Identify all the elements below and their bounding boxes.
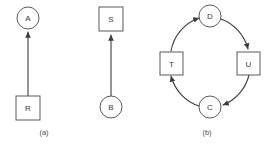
diagram-a-canvas: A R [0,0,88,128]
node-d-label: D [207,12,213,21]
diagram-c-canvas: D U C T [150,0,273,128]
node-r[interactable]: R [16,96,40,120]
node-d[interactable]: D [199,5,221,27]
diagram-panel-b: S B (b) [88,0,150,145]
figure-root: A R (a) S [0,0,273,145]
edge-u-to-c [223,75,249,105]
node-b[interactable]: B [100,96,122,118]
node-u[interactable]: U [237,52,260,75]
diagram-b-canvas: S B [88,0,150,128]
node-s-label: S [108,15,113,24]
diagram-panel-a: A R (a) [0,0,88,145]
node-t[interactable]: T [160,52,183,75]
edge-d-to-u [221,19,248,49]
node-b-label: B [108,103,113,112]
node-c[interactable]: C [199,96,221,118]
node-s[interactable]: S [99,7,123,31]
node-u-label: U [246,60,252,69]
node-a-label: A [25,14,31,23]
node-t-label: T [169,60,174,69]
node-r-label: R [25,104,31,113]
edge-c-to-t [171,76,199,106]
node-a[interactable]: A [17,7,39,29]
caption-a: (a) [0,128,88,137]
node-c-label: C [207,103,213,112]
diagram-panel-c: D U C T (c) [150,0,273,145]
edge-t-to-d [171,18,199,51]
